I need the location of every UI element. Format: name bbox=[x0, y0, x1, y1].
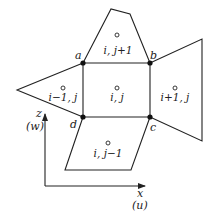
z-axis-sublabel: (w) bbox=[26, 120, 44, 133]
cell-center-marker-center bbox=[115, 86, 119, 90]
cell-label-right: i+1, j bbox=[161, 91, 191, 103]
cell-left bbox=[17, 63, 83, 117]
grid-stencil-diagram: a b c d i, j i, j+1 i−1, j i+1, j i, j−1… bbox=[0, 0, 212, 213]
cell-label-top: i, j+1 bbox=[104, 44, 133, 56]
node-label-c: c bbox=[150, 121, 156, 134]
cell-label-left: i−1, j bbox=[49, 91, 79, 103]
node-label-a: a bbox=[75, 49, 82, 62]
cell-center-marker-left bbox=[61, 86, 65, 90]
cell-label-center: i, j bbox=[110, 91, 124, 103]
cell-center-marker-bottom bbox=[106, 141, 110, 145]
diagram-canvas: a b c d i, j i, j+1 i−1, j i+1, j i, j−1… bbox=[0, 0, 212, 213]
node-c bbox=[147, 114, 152, 119]
node-d bbox=[80, 114, 85, 119]
node-label-b: b bbox=[150, 49, 157, 62]
cell-center-marker-right bbox=[173, 86, 177, 90]
z-axis-label: z bbox=[35, 107, 42, 120]
cell-label-bottom: i, j−1 bbox=[94, 147, 123, 159]
cell-center-marker-top bbox=[115, 33, 119, 37]
x-axis-sublabel: (u) bbox=[132, 199, 148, 212]
node-label-d: d bbox=[70, 118, 77, 131]
